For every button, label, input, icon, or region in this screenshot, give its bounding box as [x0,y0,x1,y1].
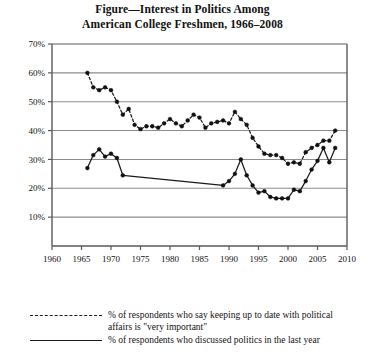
data-point [86,166,90,170]
data-point [109,152,113,156]
data-point [304,179,308,183]
x-axis-label-2010: 2010 [338,254,357,264]
y-axis-label-10: 10% [29,212,46,222]
data-point [109,88,113,92]
data-point [221,184,225,188]
figure-title: Figure—Interest in Politics Among Americ… [0,2,365,32]
data-point [268,195,272,199]
data-point [263,152,267,156]
legend-label-discussed-politics: % of respondents who discussed politics … [108,335,320,347]
data-point [298,162,302,166]
x-axis-label-1975: 1975 [132,254,151,264]
data-point [286,162,290,166]
data-point [227,121,231,125]
chart-legend: % of respondents who say keeping up to d… [0,310,365,347]
legend-label-very-important-line-2: affairs is "very important" [108,322,333,334]
data-point [322,139,326,143]
data-point [198,116,202,120]
y-axis-label-70: 70% [29,39,46,49]
data-point [292,160,296,164]
data-point [327,160,331,164]
data-point [86,71,90,75]
data-point [174,121,178,125]
data-point [156,126,160,130]
x-axis-label-1990: 1990 [220,254,239,264]
figure-title-line-1: Figure—Interest in Politics Among [0,2,365,17]
chart-area: 10%20%30%40%50%60%70%1960196519701975198… [0,34,365,284]
data-point [103,85,107,89]
data-point [280,196,284,200]
data-point [268,153,272,157]
y-axis-label-20: 20% [29,183,46,193]
data-point [274,196,278,200]
data-point [263,189,267,193]
x-axis-label-1985: 1985 [191,254,210,264]
data-point [233,172,237,176]
data-point [274,153,278,157]
x-axis-label-1995: 1995 [250,254,269,264]
data-point [150,124,154,128]
data-point [233,110,237,114]
y-axis-label-60: 60% [29,68,46,78]
x-axis-label-1965: 1965 [73,254,92,264]
data-point [145,124,149,128]
data-point [257,191,261,195]
data-point [227,179,231,183]
data-point [257,145,261,149]
data-point [186,119,190,123]
data-point [204,126,208,130]
data-point [91,153,95,157]
legend-item-very-important: % of respondents who say keeping up to d… [0,310,365,333]
data-point [192,113,196,117]
data-point [245,173,249,177]
data-point [239,117,243,121]
data-point [280,156,284,160]
data-point [327,139,331,143]
data-point [215,120,219,124]
data-point [251,184,255,188]
legend-swatch-dashed-line [30,310,102,321]
x-axis-label-1970: 1970 [102,254,121,264]
y-axis-label-50: 50% [29,97,46,107]
y-axis-label-40: 40% [29,126,46,136]
data-point [310,168,314,172]
data-point [180,124,184,128]
x-axis-label-1980: 1980 [161,254,180,264]
data-point [298,189,302,193]
data-point [251,136,255,140]
data-point [103,155,107,159]
data-point [97,88,101,92]
data-point [221,119,225,123]
data-point [322,146,326,150]
data-point [304,150,308,154]
x-axis-label-1960: 1960 [43,254,62,264]
data-point [168,117,172,121]
data-point [121,113,125,117]
series-line-1 [87,73,335,164]
data-point [139,127,143,131]
data-point [121,173,125,177]
legend-label-very-important: % of respondents who say keeping up to d… [108,310,333,333]
figure-title-line-2: American College Freshmen, 1966–2008 [0,17,365,32]
data-point [333,146,337,150]
y-axis-label-30: 30% [29,155,46,165]
x-axis-label-2000: 2000 [279,254,298,264]
data-point [91,85,95,89]
data-point [97,147,101,151]
data-point [162,121,166,125]
data-point [310,146,314,150]
data-point [245,123,249,127]
data-point [286,196,290,200]
data-point [239,158,243,162]
data-point [316,143,320,147]
data-point [127,107,131,111]
legend-label-very-important-line-1: % of respondents who say keeping up to d… [108,310,333,322]
data-point [209,121,213,125]
data-point [133,123,137,127]
line-chart: 10%20%30%40%50%60%70%1960196519701975198… [0,34,365,284]
legend-item-discussed-politics: % of respondents who discussed politics … [0,335,365,347]
data-point [115,156,119,160]
data-point [333,129,337,133]
legend-swatch-solid-line [30,335,102,346]
data-point [115,100,119,104]
